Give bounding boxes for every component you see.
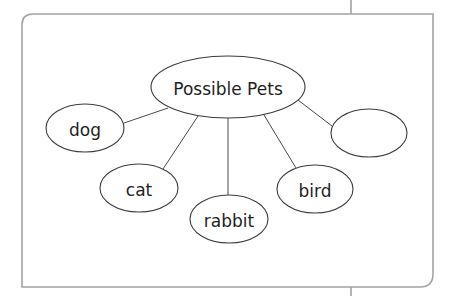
node-dog: dog (46, 104, 124, 152)
node-rabbit: rabbit (190, 195, 268, 243)
link-center-cat (163, 116, 198, 169)
concept-web-diagram: Possible Pets dog cat rabbit bird (0, 0, 449, 296)
diagram-canvas: Possible Pets dog cat rabbit bird (0, 0, 449, 296)
blank-ellipse (331, 109, 407, 157)
bird-label: bird (299, 181, 332, 201)
link-center-dog (124, 108, 168, 123)
cat-label: cat (126, 180, 153, 200)
node-bird: bird (277, 165, 353, 213)
center-node: Possible Pets (151, 56, 305, 118)
link-center-blank (298, 100, 332, 126)
link-center-bird (264, 115, 296, 168)
node-cat: cat (100, 164, 178, 212)
rabbit-label: rabbit (204, 211, 255, 231)
node-blank (331, 109, 407, 157)
center-label: Possible Pets (173, 79, 283, 99)
dog-label: dog (69, 120, 101, 140)
